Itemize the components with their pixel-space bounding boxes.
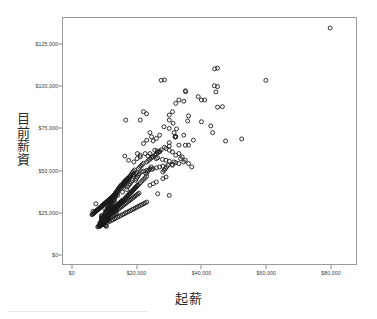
x-tick-label: $20,000 bbox=[127, 270, 146, 276]
x-tick-mark bbox=[136, 265, 137, 269]
bottom-rule bbox=[8, 311, 148, 312]
scatter-plot-figure: 目前薪資 $0$25,000$50,000$75,000$100,000$125… bbox=[0, 0, 377, 319]
x-tick-mark bbox=[71, 265, 72, 269]
x-tick-label: $80,000 bbox=[321, 270, 340, 276]
x-tick-label: $60,000 bbox=[256, 270, 275, 276]
x-tick-label: $40,000 bbox=[192, 270, 211, 276]
x-axis: $0$20,000$40,000$60,000$80,000 bbox=[0, 0, 377, 319]
x-axis-title: 起薪 bbox=[0, 288, 377, 307]
x-tick-mark bbox=[201, 265, 202, 269]
x-tick-label: $0 bbox=[69, 270, 75, 276]
x-tick-mark bbox=[266, 265, 267, 269]
x-tick-mark bbox=[331, 265, 332, 269]
